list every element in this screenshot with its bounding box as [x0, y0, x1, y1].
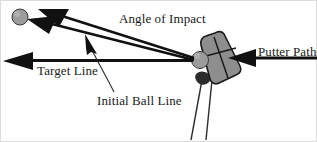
label-putter-path: Putter Path	[258, 45, 317, 58]
label-angle-of-impact: Angle of Impact	[119, 12, 206, 25]
putting-impact-diagram: Angle of Impact Target Line Initial Ball…	[0, 0, 317, 142]
golf-ball-left	[12, 9, 28, 25]
label-initial-ball-line: Initial Ball Line	[97, 94, 182, 107]
golf-ball-at-impact	[192, 52, 209, 69]
label-target-line: Target Line	[37, 64, 98, 77]
